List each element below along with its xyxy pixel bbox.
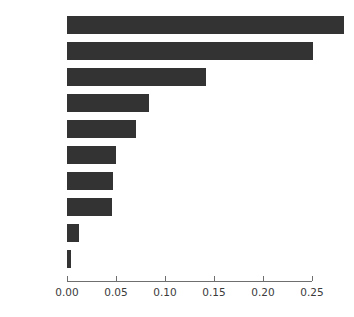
bar-debautsim: [67, 250, 71, 268]
x-axis-tick: [67, 276, 68, 281]
bar-idade: [67, 94, 149, 112]
x-axis-tick: [165, 276, 166, 281]
x-axis-tick: [263, 276, 264, 281]
bar-chart: fatura temp_cli localB Idade localC rend…: [0, 0, 354, 317]
x-axis-tick: [116, 276, 117, 281]
x-axis-tick: [312, 276, 313, 281]
x-axis-tick-label: 0.25: [282, 286, 342, 298]
bar-renda: [67, 146, 116, 164]
bar-fatura: [67, 16, 344, 34]
bar-localC: [67, 120, 136, 138]
x-axis-tick: [214, 276, 215, 281]
bar-tvcabosim: [67, 224, 79, 242]
bar-localB: [67, 68, 206, 86]
bar-temp_cli: [67, 42, 313, 60]
bar-localD: [67, 198, 112, 216]
bar-temp_rsd: [67, 172, 113, 190]
x-axis-line: [67, 281, 312, 282]
